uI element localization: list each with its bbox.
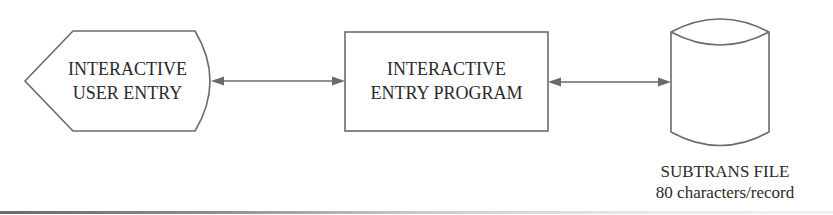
user-entry-label-line-2: USER ENTRY xyxy=(50,81,205,105)
bidirectional-arrow-program-to-file xyxy=(548,78,671,87)
bottom-divider-rule xyxy=(0,211,833,214)
subtrans-file-record-size: 80 characters/record xyxy=(620,182,830,203)
subtrans-file-cylinder xyxy=(671,19,769,146)
entry-program-label-line-1: INTERACTIVE xyxy=(345,57,548,81)
flowchart-diagram: INTERACTIVE USER ENTRY INTERACTIVE ENTRY… xyxy=(0,0,833,215)
arrowhead-right-icon xyxy=(658,78,671,87)
arrowhead-left-icon xyxy=(548,78,561,87)
entry-program-label-line-2: ENTRY PROGRAM xyxy=(345,81,548,105)
user-entry-label-line-1: INTERACTIVE xyxy=(50,57,205,81)
subtrans-file-caption: SUBTRANS FILE 80 characters/record xyxy=(620,161,830,203)
user-entry-label: INTERACTIVE USER ENTRY xyxy=(50,57,205,105)
bidirectional-arrow-user-to-program xyxy=(211,77,345,86)
arrowhead-right-icon xyxy=(332,77,345,86)
subtrans-file-name: SUBTRANS FILE xyxy=(620,161,830,182)
arrowhead-left-icon xyxy=(211,77,224,86)
entry-program-label: INTERACTIVE ENTRY PROGRAM xyxy=(345,57,548,105)
